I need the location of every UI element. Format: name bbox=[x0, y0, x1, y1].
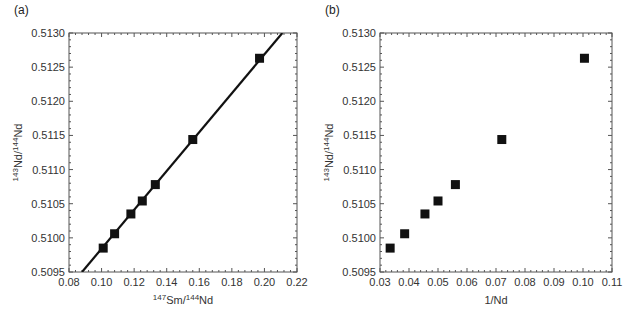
y-tick-label: 0.5105 bbox=[31, 198, 65, 210]
y-tick-label: 0.5105 bbox=[342, 198, 376, 210]
y-tick-label: 0.5125 bbox=[31, 61, 65, 73]
y-tick-label: 0.5095 bbox=[31, 266, 65, 278]
data-point-square bbox=[497, 135, 506, 144]
x-tick-label: 0.09 bbox=[543, 276, 564, 288]
y-axis-label: 143Nd/144Nd bbox=[322, 124, 335, 182]
y-tick-label: 0.5110 bbox=[32, 164, 65, 176]
x-tick-label: 0.04 bbox=[398, 276, 419, 288]
x-tick-label: 0.06 bbox=[456, 276, 477, 288]
y-tick-label: 0.5130 bbox=[31, 27, 65, 39]
panel-label: (b) bbox=[325, 3, 340, 17]
data-point-square bbox=[151, 180, 160, 189]
plot-frame bbox=[380, 33, 612, 272]
x-tick-label: 0.16 bbox=[189, 276, 210, 288]
data-point-square bbox=[580, 54, 589, 63]
data-point-square bbox=[126, 209, 135, 218]
y-tick-label: 0.5115 bbox=[343, 129, 376, 141]
data-point-square bbox=[386, 244, 395, 253]
panel-a-sm-nd-isochron: (a)0.080.100.120.140.160.180.200.220.509… bbox=[11, 3, 308, 306]
data-point-square bbox=[99, 244, 108, 253]
data-point-square bbox=[400, 229, 409, 238]
x-tick-label: 0.07 bbox=[485, 276, 506, 288]
data-point-square bbox=[110, 229, 119, 238]
data-point-square bbox=[255, 54, 264, 63]
y-tick-label: 0.5120 bbox=[31, 95, 65, 107]
x-tick-label: 0.11 bbox=[602, 276, 623, 288]
x-tick-label: 0.08 bbox=[514, 276, 535, 288]
x-tick-label: 0.14 bbox=[156, 276, 177, 288]
x-tick-label: 0.05 bbox=[427, 276, 448, 288]
x-tick-label: 0.10 bbox=[572, 276, 593, 288]
y-tick-label: 0.5120 bbox=[342, 95, 376, 107]
figure: (a)0.080.100.120.140.160.180.200.220.509… bbox=[0, 0, 632, 322]
data-point-square bbox=[434, 196, 443, 205]
x-axis-label: 1/Nd bbox=[484, 294, 507, 306]
x-tick-label: 0.18 bbox=[221, 276, 242, 288]
data-point-square bbox=[188, 135, 197, 144]
y-tick-label: 0.5130 bbox=[342, 27, 376, 39]
panel-b-mixing-plot: (b)0.030.040.050.060.070.080.090.100.110… bbox=[322, 3, 622, 306]
x-tick-label: 0.20 bbox=[254, 276, 275, 288]
x-axis-label: 147Sm/144Nd bbox=[153, 293, 213, 306]
y-tick-label: 0.5125 bbox=[342, 61, 376, 73]
data-point-square bbox=[138, 196, 147, 205]
y-axis-label: 143Nd/144Nd bbox=[11, 124, 24, 182]
x-tick-label: 0.22 bbox=[286, 276, 307, 288]
y-tick-label: 0.5115 bbox=[32, 129, 65, 141]
y-tick-label: 0.5110 bbox=[343, 164, 376, 176]
y-tick-label: 0.5100 bbox=[342, 232, 376, 244]
panel-label: (a) bbox=[14, 3, 29, 17]
data-point-square bbox=[420, 209, 429, 218]
x-tick-label: 0.12 bbox=[123, 276, 144, 288]
y-tick-label: 0.5100 bbox=[31, 232, 65, 244]
data-point-square bbox=[451, 180, 460, 189]
y-tick-label: 0.5095 bbox=[342, 266, 376, 278]
x-tick-label: 0.10 bbox=[91, 276, 112, 288]
